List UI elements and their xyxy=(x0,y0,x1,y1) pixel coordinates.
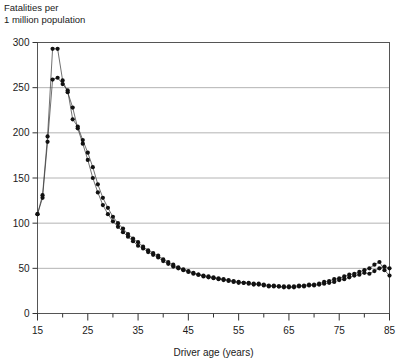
data-point xyxy=(221,277,225,281)
data-point xyxy=(81,142,85,146)
data-point xyxy=(176,265,180,269)
data-point xyxy=(201,273,205,277)
data-point xyxy=(151,251,155,255)
data-point xyxy=(171,263,175,267)
data-point xyxy=(91,165,95,169)
series-points xyxy=(35,47,391,290)
x-tick-label: 45 xyxy=(183,325,195,336)
data-point xyxy=(106,206,110,210)
data-point xyxy=(56,47,60,51)
data-point xyxy=(362,268,366,272)
y-tick-label: 150 xyxy=(13,173,30,184)
data-point xyxy=(50,77,54,81)
data-point xyxy=(121,230,125,234)
data-point xyxy=(257,282,261,286)
x-tick-label: 65 xyxy=(283,325,295,336)
data-point xyxy=(372,269,376,273)
data-point xyxy=(101,196,105,200)
data-point xyxy=(242,281,246,285)
x-tick-label: 15 xyxy=(32,325,44,336)
data-point xyxy=(262,282,266,286)
data-point xyxy=(372,263,376,267)
y-tick-label: 0 xyxy=(24,308,30,319)
data-point xyxy=(50,47,54,51)
data-point xyxy=(387,266,391,270)
data-point xyxy=(66,88,70,92)
data-point xyxy=(277,284,281,288)
data-point xyxy=(287,284,291,288)
data-point xyxy=(216,276,220,280)
data-point xyxy=(272,283,276,287)
data-point xyxy=(166,260,170,264)
data-point xyxy=(61,82,65,86)
data-point xyxy=(232,279,236,283)
data-point xyxy=(307,282,311,286)
data-point xyxy=(101,203,105,207)
x-tick-label: 55 xyxy=(233,325,245,336)
data-point xyxy=(382,264,386,268)
data-point xyxy=(252,282,256,286)
y-tick-label: 100 xyxy=(13,218,30,229)
chart-svg: 050100150200250300 1525354555657585 Driv… xyxy=(0,0,397,362)
x-axis-title: Driver age (years) xyxy=(173,347,253,358)
data-point xyxy=(226,278,230,282)
data-point xyxy=(116,225,120,229)
data-point xyxy=(136,240,140,244)
data-point xyxy=(86,158,90,162)
data-point xyxy=(337,276,341,280)
data-point xyxy=(357,270,361,274)
data-point xyxy=(247,281,251,285)
x-axis-ticks: 1525354555657585 xyxy=(32,314,396,336)
data-point xyxy=(206,274,210,278)
data-point xyxy=(327,279,331,283)
y-tick-label: 200 xyxy=(13,127,30,138)
data-point xyxy=(377,260,381,264)
data-point xyxy=(106,212,110,216)
data-point xyxy=(282,284,286,288)
x-tick-label: 85 xyxy=(384,325,396,336)
data-point xyxy=(126,232,130,236)
data-point xyxy=(267,283,271,287)
data-point xyxy=(317,282,321,286)
data-point xyxy=(86,151,90,155)
data-point xyxy=(96,182,100,186)
data-point xyxy=(111,215,115,219)
data-point xyxy=(312,282,316,286)
x-tick-label: 35 xyxy=(133,325,145,336)
data-point xyxy=(377,266,381,270)
data-point xyxy=(382,268,386,272)
data-point xyxy=(367,272,371,276)
y-axis-ticks: 050100150200250300 xyxy=(13,37,38,319)
data-point xyxy=(292,284,296,288)
data-point xyxy=(45,134,49,138)
data-point xyxy=(61,78,65,82)
data-point xyxy=(131,236,135,240)
data-point xyxy=(121,226,125,230)
data-point xyxy=(91,176,95,180)
data-point xyxy=(387,273,391,277)
plot-area: 050100150200250300 1525354555657585 Driv… xyxy=(0,0,397,362)
data-point xyxy=(186,269,190,273)
series-line xyxy=(38,78,390,287)
data-point xyxy=(322,280,326,284)
data-point xyxy=(141,245,145,249)
data-point xyxy=(367,266,371,270)
data-point xyxy=(181,267,185,271)
data-point xyxy=(81,138,85,142)
data-point xyxy=(116,221,120,225)
data-point xyxy=(35,212,39,216)
data-point xyxy=(211,275,215,279)
data-point xyxy=(40,196,44,200)
x-tick-label: 75 xyxy=(334,325,346,336)
data-point xyxy=(347,273,351,277)
data-point xyxy=(136,244,140,248)
chart-container: Fatalities per1 million population 05010… xyxy=(0,0,397,362)
x-tick-label: 25 xyxy=(82,325,94,336)
data-point xyxy=(96,190,100,194)
data-point xyxy=(156,254,160,258)
data-point xyxy=(237,280,241,284)
data-point xyxy=(352,272,356,276)
y-tick-label: 50 xyxy=(18,263,30,274)
data-point xyxy=(191,271,195,275)
y-tick-label: 250 xyxy=(13,82,30,93)
